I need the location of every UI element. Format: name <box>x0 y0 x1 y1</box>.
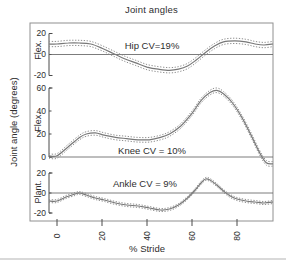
x-tick-label: 0 <box>52 234 62 239</box>
ankle-y-tick-label: 0 <box>0 188 46 198</box>
x-tick-label: 20 <box>97 231 107 240</box>
figure-joint-angles: Joint angles Joint angle (degrees) Flex.… <box>0 0 286 265</box>
knee-y-tick-label: 60 <box>0 83 46 93</box>
hip-y-tick-label: -20 <box>0 70 46 80</box>
hip-y-tick-label: 20 <box>0 28 46 38</box>
page-artifact-line <box>0 258 286 260</box>
hip-y-tick-label: 0 <box>0 49 46 59</box>
knee-cv-annotation: Knee CV = 10% <box>118 145 186 156</box>
knee-y-tick-label: 20 <box>0 129 46 139</box>
knee-y-tick-label: 40 <box>0 106 46 116</box>
plot-frame <box>30 23 273 221</box>
hip-cv-annotation: Hip CV=19% <box>125 40 180 51</box>
chart-title: Joint angles <box>30 4 273 15</box>
x-tick-label: 60 <box>187 231 197 240</box>
ankle-cv-annotation: Ankle CV = 9% <box>113 178 177 189</box>
x-axis-ticks <box>57 219 237 226</box>
ankle-y-tick-label: -20 <box>0 208 46 218</box>
x-axis-label: % Stride <box>57 243 237 254</box>
knee-y-tick-label: 0 <box>0 152 46 162</box>
knee-y-axis <box>49 88 53 157</box>
x-tick-label: 40 <box>142 231 152 240</box>
x-tick-label: 80 <box>232 231 242 240</box>
ankle-y-tick-label: 20 <box>0 168 46 178</box>
